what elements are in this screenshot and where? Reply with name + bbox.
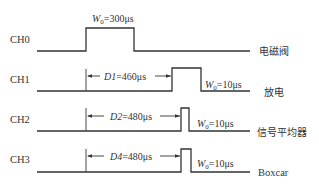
right-label-ch2: 信号平均器 <box>257 127 307 138</box>
delay-label-ch2: D2=480μs <box>109 111 152 122</box>
arrow-left-icon <box>87 74 92 77</box>
arrow-right-icon <box>175 154 180 157</box>
delay-label-ch1: D1=460μs <box>103 71 146 82</box>
pulse-width-label-ch2: W0=10μs <box>197 118 234 131</box>
arrow-left-icon <box>87 114 92 117</box>
pulse-width-label-ch3: W0=10μs <box>197 158 234 171</box>
channel-label-ch2: CH2 <box>10 114 30 125</box>
channel-label-ch1: CH1 <box>10 74 30 85</box>
right-label-ch3: Boxcar <box>258 167 289 178</box>
right-label-ch0: 电磁阀 <box>259 45 289 57</box>
pulse-width-label-ch1: W0=10μs <box>205 79 242 92</box>
right-label-ch1: 放电 <box>264 86 284 98</box>
pulse-width-label-ch0: W0=300μs <box>92 13 134 26</box>
arrow-right-icon <box>166 74 171 77</box>
channel-ch3: CH3 D4=480μs W0=10μs Boxcar <box>10 149 289 178</box>
channel-ch2: CH2 D2=480μs W0=10μs 信号平均器 <box>10 108 307 138</box>
channel-label-ch0: CH0 <box>10 34 30 45</box>
channel-ch1: CH1 D1=460μs W0=10μs 放电 <box>10 68 284 98</box>
arrow-left-icon <box>87 154 92 157</box>
timing-diagram: CH0 W0=300μs 电磁阀 CH1 D1=460μs W0=10μs 放电… <box>0 0 319 190</box>
channel-label-ch3: CH3 <box>10 154 30 165</box>
signal-ch0 <box>37 28 250 51</box>
delay-label-ch3: D4=480μs <box>109 151 152 162</box>
channel-ch0: CH0 W0=300μs 电磁阀 <box>10 13 289 57</box>
arrow-right-icon <box>175 114 180 117</box>
